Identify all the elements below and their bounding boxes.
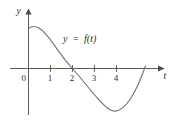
tick-label-4: 4 [114,73,119,83]
y-axis-label: y [16,6,22,16]
graph-canvas: 0 1 2 3 4 y t y = f(t) [0,0,175,121]
y-axis-arrowhead [25,9,31,15]
curve-label: y = f(t) [62,33,97,45]
tick-label-1: 1 [48,73,53,83]
curve-label-lhs: y [62,33,68,44]
tick-label-0: 0 [22,73,27,83]
curve-label-equals: = [73,33,79,44]
function-graph-figure: 0 1 2 3 4 y t y = f(t) [0,0,175,121]
tick-label-3: 3 [92,73,97,83]
tick-label-2: 2 [70,73,75,83]
t-axis-label: t [164,71,167,81]
curve-label-rhs: f(t) [84,33,97,45]
